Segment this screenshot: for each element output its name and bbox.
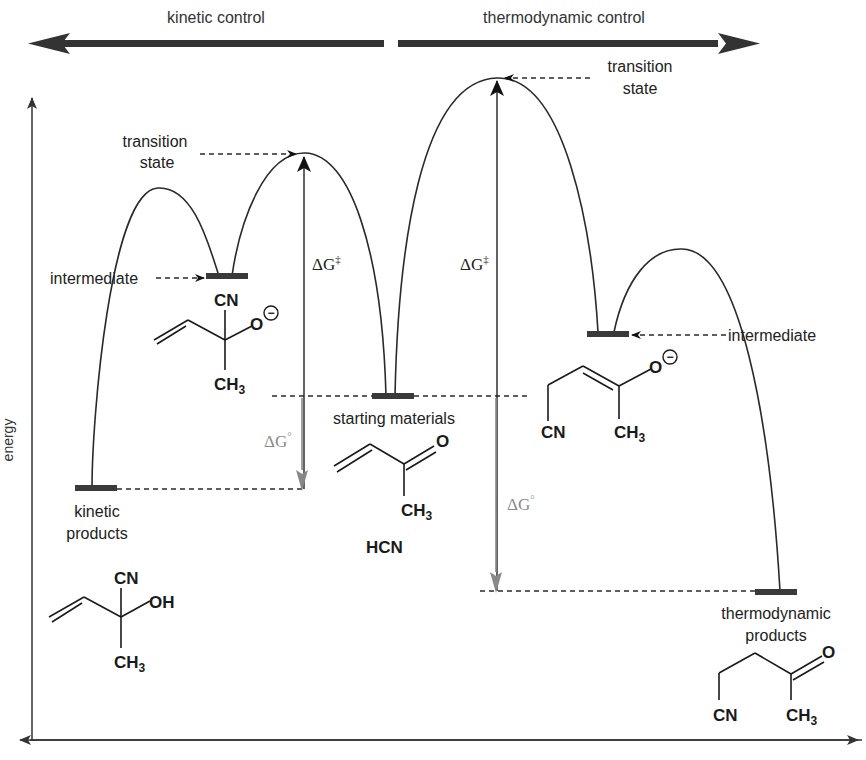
thermo-products-label-line2: products — [745, 627, 806, 644]
ch3-group: CH3 — [614, 423, 646, 445]
oh-group: OH — [149, 593, 175, 612]
ts-left-label-line1: transition — [123, 133, 188, 150]
ch3-group: CH3 — [114, 653, 146, 675]
ch3-group: CH3 — [214, 375, 246, 397]
oxygen: O — [250, 315, 263, 334]
dG-activation-thermo-label: ΔG‡ — [460, 253, 489, 274]
thermodynamic-products-level — [755, 589, 797, 595]
intermediate-right-label: intermediate — [728, 327, 816, 344]
ch3-group: CH3 — [401, 501, 433, 523]
intermediate-left-structure: CN O − CH3 — [154, 291, 278, 397]
ts-right-label-line1: transition — [608, 58, 673, 75]
kinetic-products-label-line1: kinetic — [74, 503, 119, 520]
thermo-product-structure: O CN CH3 — [713, 643, 835, 728]
thermodynamic-control-label: thermodynamic control — [483, 9, 645, 26]
negative-charge: − — [267, 306, 274, 320]
kinetic-product-structure: CN OH CH3 — [49, 569, 175, 675]
starting-materials-label: starting materials — [333, 410, 455, 427]
dG-standard-thermo-label: ΔG° — [507, 493, 535, 514]
dG-standard-kinetic-label: ΔG° — [264, 430, 292, 451]
ts-right-label-line2: state — [623, 80, 658, 97]
intermediate-left-label: intermediate — [50, 270, 138, 287]
dG-activation-kinetic-label: ΔG‡ — [312, 253, 341, 274]
intermediate-to-start-curve-left — [232, 153, 386, 396]
cn-group: CN — [713, 706, 738, 725]
dG-standard-thermo-arrowhead — [490, 572, 502, 593]
oxygen: O — [822, 643, 835, 662]
cn-group: CN — [214, 291, 239, 310]
thermo-products-label-line1: thermodynamic — [721, 605, 830, 622]
intermediate-left-level — [206, 273, 248, 279]
starting-material-structure: O CH3 HCN — [334, 432, 449, 557]
y-axis-label: energy — [0, 419, 16, 462]
thermodynamic-control-arrow — [398, 33, 760, 54]
oxygen: O — [436, 432, 449, 451]
cn-group: CN — [541, 423, 566, 442]
energy-diagram: kinetic control thermodynamic control en… — [0, 0, 866, 760]
ts-left-label-line2: state — [140, 154, 175, 171]
ch3-group: CH3 — [786, 706, 818, 728]
starting-materials-level — [372, 393, 414, 399]
intermediate-right-structure: O − CN CH3 — [541, 350, 677, 445]
kinetic-control-label: kinetic control — [167, 9, 265, 26]
negative-charge: − — [666, 350, 673, 364]
intermediate-to-thermo-product-curve — [614, 249, 780, 591]
kinetic-product-to-intermediate-curve — [92, 188, 219, 488]
oxygen: O — [649, 358, 662, 377]
hcn-reagent: HCN — [366, 538, 403, 557]
kinetic-products-level — [75, 485, 117, 491]
intermediate-right-level — [587, 331, 629, 337]
kinetic-products-label-line2: products — [66, 525, 127, 542]
cn-group: CN — [114, 569, 139, 588]
kinetic-control-arrow — [28, 33, 384, 54]
dG-standard-kinetic-arrowhead — [296, 470, 308, 491]
